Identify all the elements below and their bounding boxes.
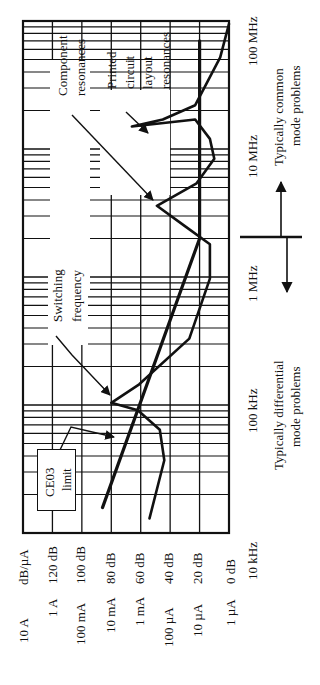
current-label-1ma: 1 mA: [133, 597, 147, 626]
current-label-10a: 10 A: [17, 618, 31, 643]
db-label-20: 20 dB: [191, 553, 205, 584]
db-label-60: 60 dB: [133, 553, 147, 584]
freq-label-10khz: 10 kHz: [246, 542, 260, 580]
annotation-switching-1: Switching: [51, 269, 65, 322]
annotation-ce03-1: CE03: [43, 467, 57, 497]
annotation-ce03-2: limit: [60, 468, 74, 491]
current-label-1a: 1 A: [46, 599, 60, 617]
annotation-pcb-2: circuit: [123, 56, 137, 89]
freq-label-1mhz: 1 MHz: [246, 266, 260, 302]
db-label-120: 120 dB: [46, 546, 60, 584]
current-label-1ua: 1 µA: [224, 599, 238, 626]
annotation-component-1: Component: [56, 35, 70, 96]
current-label-100ma: 100 mA: [74, 603, 88, 645]
freq-label-100mhz: 100 MHz: [246, 17, 260, 66]
current-label-100ua: 100 µA: [162, 607, 176, 647]
freq-label-10mhz: 10 MHz: [246, 135, 260, 178]
differential-mode-label-1: Typically differential: [272, 360, 286, 470]
freq-label-100khz: 100 kHz: [246, 389, 260, 433]
annotation-switching-2: frequency: [70, 270, 84, 322]
annotation-component-2: resonances: [74, 39, 88, 96]
current-label-10ua: 10 µA: [191, 604, 205, 637]
common-mode-label-2: mode problems: [289, 65, 303, 146]
current-label-10ma: 10 mA: [104, 597, 118, 633]
db-label-40: 40 dB: [162, 553, 176, 584]
annotation-pcb-4: resonances: [159, 32, 173, 89]
annotation-pcb-1: Printed: [105, 51, 119, 89]
annotation-pcb-3: layout: [141, 57, 155, 90]
db-label-0: 0 dB: [224, 559, 238, 584]
db-label-100: 100 dB: [74, 546, 88, 584]
db-label-80: 80 dB: [104, 553, 118, 584]
differential-mode-label-2: mode problems: [289, 366, 303, 447]
unit-label: dB/µA: [17, 549, 31, 585]
common-mode-label-1: Typically common: [272, 68, 286, 166]
